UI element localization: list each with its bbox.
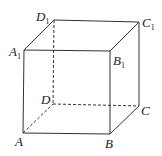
edge-a-d [23,104,53,133]
edge-b1-c1 [110,22,139,51]
edge-a1-b1 [24,50,110,51]
label-a: A [14,134,23,149]
edge-b-c [110,106,139,134]
edge-a-b [23,133,110,134]
label-a1: A1 [8,44,21,61]
label-b1: B1 [113,53,125,70]
edge-d-c [53,104,139,106]
label-d1: D1 [35,9,49,26]
label-b: B [105,136,113,151]
visible-edges [23,20,139,134]
label-c: C [141,103,150,118]
label-c1: C1 [142,15,155,32]
hidden-edges [23,20,139,133]
edge-d1-c1 [54,20,139,22]
cube-diagram: D1 C1 A1 B1 D C A B [0,0,162,156]
label-d: D [40,92,51,107]
edge-a-a1 [23,50,24,133]
edge-a1-d1 [24,20,54,50]
edge-d-d1 [53,20,54,104]
